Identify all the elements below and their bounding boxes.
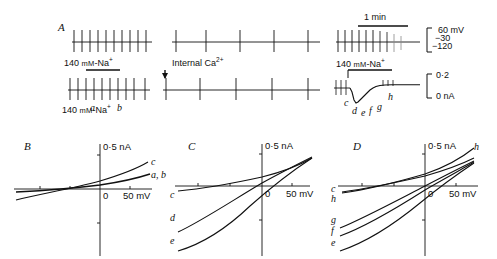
panel-d-curve-f <box>340 162 474 236</box>
figure-root: A 1 min <box>0 0 497 259</box>
panel-d-label-h-right: h <box>474 142 479 152</box>
panel-d-label-e: e <box>331 238 335 248</box>
panel-d-graphics <box>0 0 497 259</box>
panel-d-label-h-left: h <box>331 194 336 204</box>
panel-d-label-f: f <box>331 226 334 236</box>
panel-d-origin-label: 0 <box>428 189 433 199</box>
panel-d-x-label: 50 mV <box>449 189 476 199</box>
panel-d-y-label: 0·5 nA <box>428 141 456 151</box>
panel-d-label-g: g <box>331 215 336 225</box>
panel-d-curve-c <box>342 158 474 192</box>
panel-d-curve-e <box>340 163 474 251</box>
